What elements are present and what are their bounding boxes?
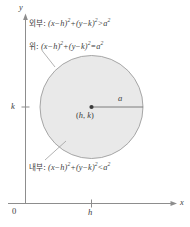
y-axis-label: y	[19, 4, 23, 12]
center-point	[89, 105, 93, 109]
x-axis-arrow	[171, 201, 178, 206]
figure-canvas	[0, 0, 190, 227]
radius-label: a	[118, 94, 122, 103]
interior-ko-label: 내부:	[29, 163, 46, 172]
interior-annotation: 내부: (x−h)2+(y−k)2<a2	[29, 164, 110, 172]
interior-y: y	[79, 163, 83, 172]
y-tick-label-k: k	[11, 102, 15, 111]
leader-line-on-circle	[42, 51, 55, 68]
on-circle-annotation: 위: (x−h)2+(y−k)2=a2	[29, 43, 103, 51]
center-coordinates-label: (h, k)	[76, 112, 94, 120]
on-sup3: 2	[100, 40, 103, 46]
exterior-annotation: 외부: (x−h)2+(y−k)2>a2	[29, 20, 110, 28]
interior-sup3: 2	[108, 161, 111, 167]
center-paren-close: )	[91, 111, 94, 120]
circle-regions-figure: y x 0 k h a (h, k) 외부: (x−h)2+(y−k)2>a2 …	[0, 0, 190, 227]
x-axis-label: x	[180, 199, 184, 207]
y-axis-arrow	[23, 14, 28, 21]
exterior-ko-label: 외부:	[29, 19, 46, 28]
on-circle-ko-label: 위:	[29, 42, 39, 51]
exterior-sup3: 2	[108, 17, 111, 23]
origin-label: 0	[12, 207, 16, 216]
exterior-y: y	[79, 19, 83, 28]
x-tick-label-h: h	[88, 208, 92, 217]
